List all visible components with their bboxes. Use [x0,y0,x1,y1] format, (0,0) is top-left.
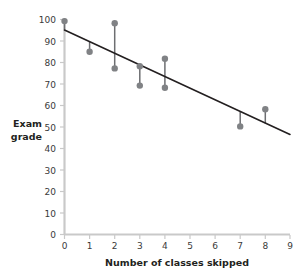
data-point [112,65,118,71]
y-tick-label: 10 [45,209,57,219]
y-axis-title-line2: grade [11,131,42,142]
x-axis-title: Number of classes skipped [105,257,249,268]
data-point [86,49,92,55]
data-point [237,123,243,129]
y-tick-label: 70 [45,80,57,90]
scatterplot-figure: 100 90 80 70 60 50 40 30 20 10 0 0 1 2 3… [0,0,304,273]
x-tick-label: 1 [87,241,93,251]
x-tick-label: 5 [187,241,193,251]
x-tick-label: 7 [237,241,243,251]
y-axis-title-line1: Exam [13,118,42,129]
data-point [137,82,143,88]
y-tick-label: 50 [45,123,57,133]
y-tick-label: 40 [45,144,57,154]
y-tick-label: 30 [45,166,57,176]
data-point [137,63,143,69]
data-point [162,56,168,62]
x-tick-label: 4 [162,241,168,251]
data-point [112,20,118,26]
y-tick-label: 60 [45,101,57,111]
data-point [162,85,168,91]
y-tick-label: 0 [50,230,56,240]
x-tick-label: 8 [262,241,268,251]
x-tick-label: 9 [287,241,293,251]
x-tick-label: 2 [112,241,118,251]
x-tick-label: 3 [137,241,143,251]
data-point [262,106,268,112]
x-tick-label: 6 [212,241,218,251]
y-tick-label: 80 [45,58,57,68]
y-tick-label: 20 [45,187,57,197]
y-tick-label: 100 [39,15,56,25]
data-point [61,18,67,24]
x-tick-label: 0 [62,241,68,251]
y-tick-label: 90 [45,37,57,47]
